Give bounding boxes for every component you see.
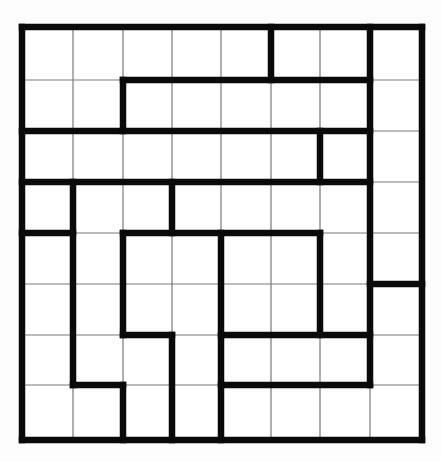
grid-cell-r1-c7[interactable] — [370, 80, 422, 131]
grid-cell-r2-c0[interactable] — [22, 131, 73, 182]
grid-cell-r3-c3[interactable] — [172, 182, 221, 233]
grid-cell-r3-c7[interactable] — [370, 182, 422, 233]
grid-cell-r5-c4[interactable] — [221, 284, 271, 335]
grid-cell-r2-c6[interactable] — [320, 131, 370, 182]
grid-cell-r6-c7[interactable] — [370, 335, 422, 385]
grid-cell-r7-c3[interactable] — [172, 385, 221, 440]
grid-cell-r1-c0[interactable] — [22, 80, 73, 131]
grid-cell-r5-c5[interactable] — [271, 284, 320, 335]
grid-cell-r6-c1[interactable] — [73, 335, 123, 385]
grid-cell-r2-c1[interactable] — [73, 131, 123, 182]
grid-cell-r2-c4[interactable] — [221, 131, 271, 182]
grid-cell-r5-c3[interactable] — [172, 284, 221, 335]
grid-cell-r5-c2[interactable] — [123, 284, 172, 335]
grid-cell-r3-c4[interactable] — [221, 182, 271, 233]
grid-cell-r6-c5[interactable] — [271, 335, 320, 385]
grid-cell-r6-c6[interactable] — [320, 335, 370, 385]
grid-cell-r3-c5[interactable] — [271, 182, 320, 233]
grid-cell-r4-c0[interactable] — [22, 233, 73, 284]
grid-cell-r6-c0[interactable] — [22, 335, 73, 385]
grid-cell-r1-c5[interactable] — [271, 80, 320, 131]
grid-cell-r7-c1[interactable] — [73, 385, 123, 440]
grid-cell-r1-c6[interactable] — [320, 80, 370, 131]
puzzle-grid[interactable] — [0, 0, 441, 461]
grid-cell-r1-c1[interactable] — [73, 80, 123, 131]
grid-cell-r2-c7[interactable] — [370, 131, 422, 182]
grid-cell-r0-c0[interactable] — [22, 27, 73, 80]
grid-cell-r4-c7[interactable] — [370, 233, 422, 284]
grid-cell-r0-c6[interactable] — [320, 27, 370, 80]
grid-cell-r4-c4[interactable] — [221, 233, 271, 284]
grid-cell-r4-c5[interactable] — [271, 233, 320, 284]
grid-cell-r7-c4[interactable] — [221, 385, 271, 440]
grid-cell-r0-c2[interactable] — [123, 27, 172, 80]
grid-cell-r7-c7[interactable] — [370, 385, 422, 440]
grid-cell-r2-c3[interactable] — [172, 131, 221, 182]
grid-cell-r7-c6[interactable] — [320, 385, 370, 440]
grid-cell-r4-c3[interactable] — [172, 233, 221, 284]
grid-cell-r3-c0[interactable] — [22, 182, 73, 233]
grid-cell-r1-c2[interactable] — [123, 80, 172, 131]
grid-cell-r6-c3[interactable] — [172, 335, 221, 385]
grid-cell-r6-c2[interactable] — [123, 335, 172, 385]
grid-cell-r6-c4[interactable] — [221, 335, 271, 385]
grid-cell-r0-c4[interactable] — [221, 27, 271, 80]
grid-cell-r7-c5[interactable] — [271, 385, 320, 440]
grid-cell-r0-c7[interactable] — [370, 27, 422, 80]
grid-cell-r0-c1[interactable] — [73, 27, 123, 80]
grid-cell-r4-c6[interactable] — [320, 233, 370, 284]
grid-cell-r3-c2[interactable] — [123, 182, 172, 233]
grid-cell-r5-c6[interactable] — [320, 284, 370, 335]
grid-cell-r2-c5[interactable] — [271, 131, 320, 182]
grid-cell-r4-c1[interactable] — [73, 233, 123, 284]
grid-cell-r5-c0[interactable] — [22, 284, 73, 335]
grid-cell-r7-c0[interactable] — [22, 385, 73, 440]
grid-cell-r5-c1[interactable] — [73, 284, 123, 335]
grid-cell-r4-c2[interactable] — [123, 233, 172, 284]
grid-cell-r3-c1[interactable] — [73, 182, 123, 233]
grid-cell-r3-c6[interactable] — [320, 182, 370, 233]
grid-cell-r1-c3[interactable] — [172, 80, 221, 131]
grid-cell-r5-c7[interactable] — [370, 284, 422, 335]
grid-cell-r2-c2[interactable] — [123, 131, 172, 182]
grid-cell-r0-c3[interactable] — [172, 27, 221, 80]
grid-cell-r7-c2[interactable] — [123, 385, 172, 440]
grid-cell-r0-c5[interactable] — [271, 27, 320, 80]
grid-cell-r1-c4[interactable] — [221, 80, 271, 131]
